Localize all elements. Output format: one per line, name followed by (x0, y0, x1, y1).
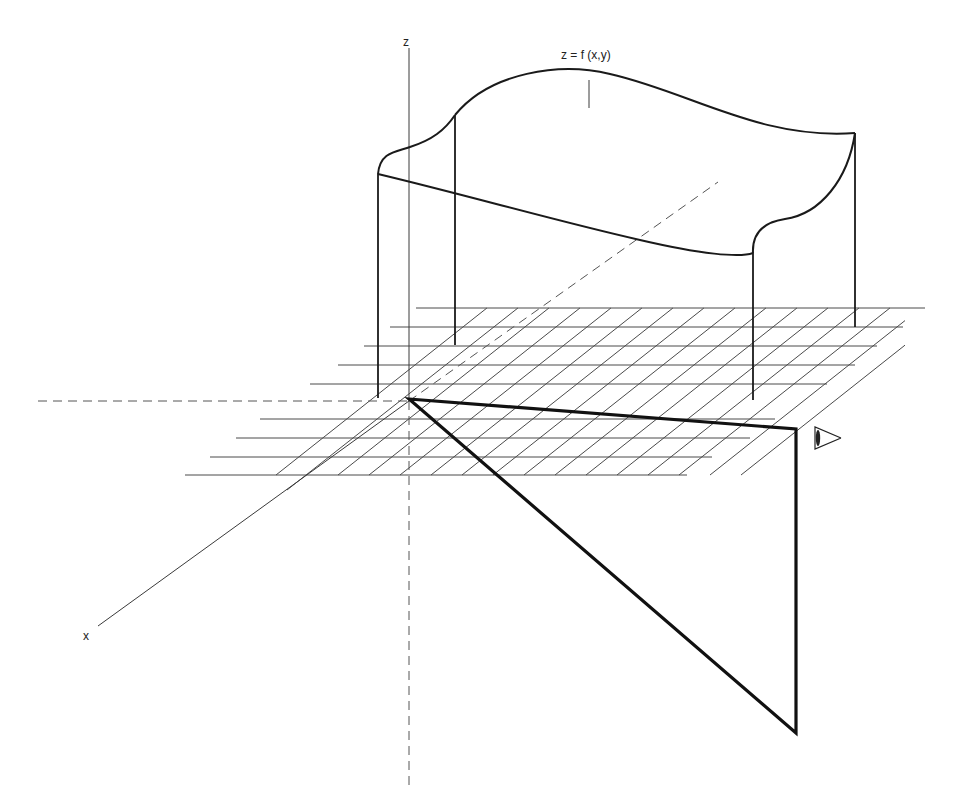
grid-line-diagonal (338, 308, 549, 475)
eye-icon (815, 427, 841, 449)
x-axis (98, 401, 409, 626)
surface-front-edge (378, 174, 753, 255)
grid-line-diagonal (524, 308, 735, 475)
grid-line-diagonal (555, 308, 766, 475)
grid-line-diagonal (462, 308, 673, 475)
grid-line-diagonal (400, 308, 611, 475)
surface-back-edge (455, 69, 855, 133)
grid-line-diagonal (586, 308, 797, 475)
surface-left-edge (378, 115, 455, 174)
grid-line-diagonal (493, 308, 704, 475)
grid-line-diagonal (710, 321, 905, 475)
surface-right-edge (753, 133, 855, 253)
grid-line-diagonal (431, 308, 642, 475)
xy-plane-grid-diagonal (276, 308, 905, 490)
surface-label: z = f (x,y) (561, 48, 611, 62)
grid-line-diagonal (369, 308, 580, 475)
surface-diagram: z x z = f (x,y) (0, 0, 953, 812)
x-axis-label: x (83, 629, 89, 643)
viewing-triangle (409, 399, 796, 733)
grid-line-diagonal (679, 308, 890, 475)
z-axis-label: z (403, 35, 409, 49)
